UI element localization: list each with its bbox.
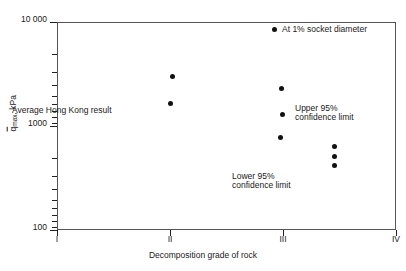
y-tick-minor [52,208,57,209]
y-tick-minor [52,176,57,177]
plot-area [57,22,396,230]
chart-figure: 10 000 1000 100 qmax, kPa I II III IV De… [0,0,406,271]
y-axis-subscript: max [11,115,18,127]
y-tick-minor [52,221,57,222]
y-tick-minor [52,117,57,118]
y-tick-10000 [50,22,57,23]
y-tick-label-10000: 10 000 [0,14,47,24]
x-tick-label-III: III [271,234,295,244]
legend: At 1% socket diameter [272,24,367,34]
y-tick-minor [52,123,57,124]
data-point [279,86,284,91]
x-tick-label-IV: IV [384,234,406,244]
y-tick-minor [52,215,57,216]
data-point [332,163,337,168]
y-tick-minor [52,54,57,55]
annotation-average: Average Hong Kong result [12,106,112,116]
data-point [278,135,283,140]
data-point [332,144,337,149]
y-tick-minor [52,85,57,86]
x-tick-label-II: II [158,234,182,244]
y-tick-1000 [50,126,57,127]
y-axis-symbol: q [8,127,18,132]
x-tick-label-I: I [45,234,69,244]
data-point [168,101,173,106]
y-tick-minor [52,158,57,159]
legend-label: At 1% socket diameter [282,24,367,34]
y-tick-100 [50,230,57,231]
y-tick-minor [52,200,57,201]
y-tick-minor [52,189,57,190]
y-tick-minor [52,227,57,228]
data-point [170,74,175,79]
y-tick-minor [52,72,57,73]
y-tick-label-100: 100 [0,222,47,232]
y-tick-minor [52,96,57,97]
x-axis-title: Decomposition grade of rock [0,250,406,260]
annotation-lower-line2: confidence limit [232,181,291,191]
legend-marker-icon [272,27,277,32]
data-point [332,154,337,159]
data-point [280,112,285,117]
annotation-upper-line2: confidence limit [295,113,354,123]
